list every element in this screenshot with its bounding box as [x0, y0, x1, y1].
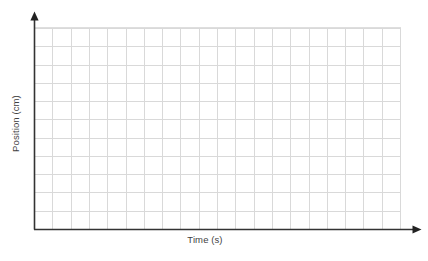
- plot-grid-area: [34, 27, 401, 229]
- grid-line-horizontal: [34, 83, 400, 84]
- grid-line-horizontal: [34, 192, 400, 193]
- grid-line-horizontal: [34, 138, 400, 139]
- grid-line-horizontal: [34, 174, 400, 175]
- grid-line-vertical: [363, 28, 364, 229]
- grid-line-vertical: [144, 28, 145, 229]
- grid-line-horizontal: [34, 119, 400, 120]
- blank-position-time-graph: Time (s) Position (cm): [0, 0, 428, 261]
- y-axis-label-text: Position (cm): [10, 95, 21, 152]
- grid-line-vertical: [217, 28, 218, 229]
- grid-line-horizontal: [34, 229, 400, 230]
- y-axis-label: Position (cm): [10, 64, 21, 184]
- grid-line-horizontal: [34, 28, 400, 29]
- x-axis-label: Time (s): [0, 234, 428, 245]
- grid-line-horizontal: [34, 101, 400, 102]
- grid-line-vertical: [254, 28, 255, 229]
- grid-line-vertical: [180, 28, 181, 229]
- grid-line-vertical: [327, 28, 328, 229]
- grid-line-vertical: [235, 28, 236, 229]
- grid-line-horizontal: [34, 65, 400, 66]
- arrow-up-icon: [30, 12, 38, 21]
- grid-line-horizontal: [34, 46, 400, 47]
- grid-line-vertical: [345, 28, 346, 229]
- grid-line-vertical: [199, 28, 200, 229]
- grid-line-vertical: [71, 28, 72, 229]
- grid-line-vertical: [290, 28, 291, 229]
- grid-line-vertical: [272, 28, 273, 229]
- grid-line-horizontal: [34, 211, 400, 212]
- grid-line-vertical: [126, 28, 127, 229]
- grid-line-vertical: [309, 28, 310, 229]
- grid-line-horizontal: [34, 156, 400, 157]
- grid-line-vertical: [107, 28, 108, 229]
- grid-line-vertical: [34, 28, 35, 229]
- grid-line-vertical: [382, 28, 383, 229]
- arrow-right-icon: [413, 225, 422, 233]
- grid-line-vertical: [52, 28, 53, 229]
- grid-line-vertical: [400, 28, 401, 229]
- grid-line-vertical: [162, 28, 163, 229]
- grid-line-vertical: [89, 28, 90, 229]
- x-axis-label-text: Time (s): [187, 234, 222, 245]
